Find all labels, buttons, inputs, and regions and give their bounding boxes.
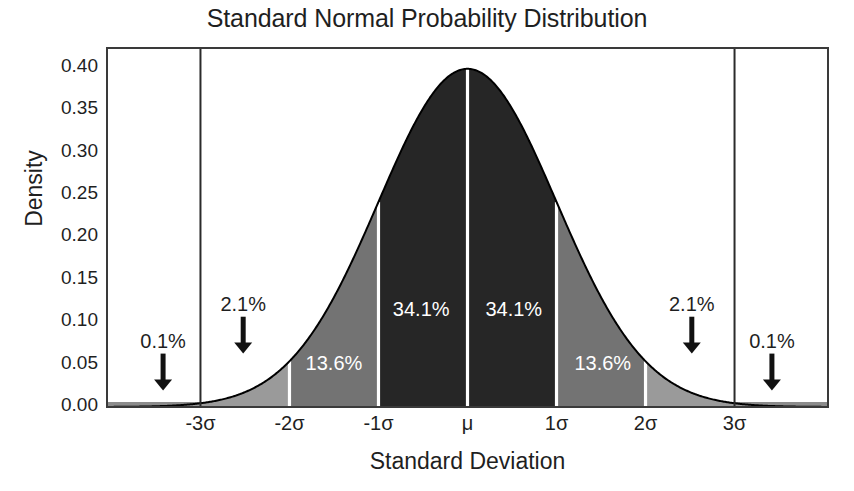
- tail-percentage-label: 0.1%: [140, 330, 186, 353]
- x-axis-label: Standard Deviation: [107, 448, 828, 475]
- density-band: [200, 361, 289, 407]
- tail-percentage-label: 2.1%: [669, 293, 715, 316]
- x-tick-label: μ: [438, 412, 498, 435]
- band-percentage-label: 34.1%: [393, 297, 450, 320]
- chart-figure: Standard Normal Probability Distribution…: [0, 0, 854, 491]
- band-percentage-label: 13.6%: [306, 351, 363, 374]
- annotation-arrow-head: [683, 343, 701, 354]
- x-tick-label: -2σ: [259, 412, 319, 435]
- annotation-arrow-head: [763, 379, 781, 390]
- annotation-arrow-head: [154, 379, 172, 390]
- annotation-arrow-head: [234, 343, 252, 354]
- tail-percentage-label: 2.1%: [220, 293, 266, 316]
- density-band: [646, 361, 735, 407]
- band-percentage-label: 34.1%: [485, 297, 542, 320]
- x-tick-label: -1σ: [348, 412, 408, 435]
- density-band: [468, 69, 557, 407]
- x-tick-label: -3σ: [170, 412, 230, 435]
- tail-percentage-label: 0.1%: [749, 330, 795, 353]
- x-tick-label: 2σ: [616, 412, 676, 435]
- x-tick-label: 3σ: [705, 412, 765, 435]
- band-percentage-label: 13.6%: [574, 351, 631, 374]
- x-tick-label: 1σ: [527, 412, 587, 435]
- density-band: [378, 69, 467, 407]
